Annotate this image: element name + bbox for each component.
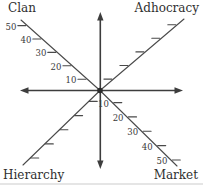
- hierarchy-diagonal: [23, 91, 100, 166]
- corner-label-market: Market: [154, 168, 199, 182]
- clan-tick-label: 40: [20, 35, 31, 45]
- clan-tick-label: 10: [66, 75, 77, 85]
- clan-diagonal: [21, 20, 100, 91]
- clan-tick-label: 50: [5, 22, 16, 32]
- market-tick-label: 10: [98, 99, 109, 109]
- market-tick-label: 30: [127, 127, 138, 137]
- corner-label-adhocracy: Adhocracy: [134, 1, 200, 15]
- corner-label-hierarchy: Hierarchy: [3, 168, 64, 182]
- market-tick-label: 40: [142, 142, 153, 152]
- corner-label-clan: Clan: [8, 1, 36, 15]
- market-tick-label: 20: [113, 113, 124, 123]
- market-tick-label: 50: [156, 156, 167, 166]
- right-arrowhead-icon: [175, 87, 184, 93]
- bottom-arrowhead-icon: [97, 161, 103, 170]
- scan-artifact: [0, 183, 203, 185]
- cvf-axes-figure: 10 20 30 40 50 10 20 30 40 50 Clan: [0, 0, 203, 185]
- top-arrowhead-icon: [97, 12, 103, 21]
- origin-dot: [97, 88, 103, 94]
- left-arrowhead-icon: [20, 87, 29, 93]
- adhocracy-diagonal: [100, 19, 184, 91]
- market-diagonal: [100, 91, 177, 167]
- cvf-axes-svg: 10 20 30 40 50 10 20 30 40 50 Clan: [0, 0, 203, 185]
- clan-tick-label: 30: [35, 48, 46, 58]
- clan-tick-label: 20: [51, 62, 62, 72]
